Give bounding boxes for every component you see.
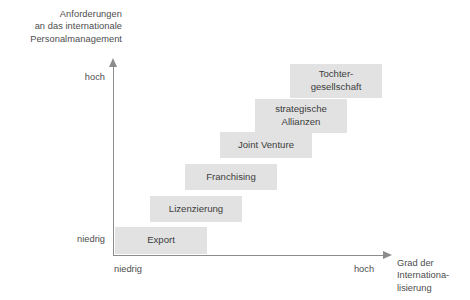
step-box-tochtergesellschaft: Tochter- gesellschaft [290,64,382,98]
x-axis-arrow-icon [383,251,392,259]
step-box-export: Export [115,227,207,254]
step-box-lizenzierung: Lizenzierung [150,196,242,222]
step-label: Lizenzierung [169,203,223,216]
y-axis-arrow-icon [109,58,117,67]
y-axis-tick-high: hoch [0,71,105,83]
x-axis-line [113,255,385,256]
x-axis-tick-low: niedrig [103,263,153,275]
step-label: strategische Allianzen [275,103,327,128]
step-box-franchising: Franchising [185,164,277,190]
step-label: Export [147,234,175,247]
x-axis-title-line-2: Internationa- [397,269,469,281]
y-axis-title: Anforderungen an das internationale Pers… [0,8,122,45]
x-axis-tick-high: hoch [344,263,384,275]
step-label: Joint Venture [238,139,294,152]
x-axis-title-line-3: lisierung [397,282,469,294]
step-box-joint-venture: Joint Venture [220,132,312,158]
y-axis-title-line-3: Personalmanagement [0,33,122,45]
y-axis-tick-low: niedrig [0,233,105,245]
y-axis-title-line-1: Anforderungen [0,8,122,20]
x-axis-title-line-1: Grad der [397,257,469,269]
x-axis-title: Grad der Internationa- lisierung [397,257,469,294]
step-label: Tochter- gesellschaft [311,68,362,93]
step-box-strategische-allianzen: strategische Allianzen [255,99,347,133]
diagram-canvas: Anforderungen an das internationale Pers… [0,0,470,300]
y-axis-title-line-2: an das internationale [0,20,122,32]
step-label: Franchising [206,171,256,184]
